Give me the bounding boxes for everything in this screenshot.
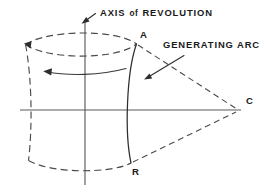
labels-group: AXISofREVOLUTION GENERATING ARC A C R bbox=[100, 7, 260, 177]
radius-lines-group bbox=[133, 45, 236, 162]
generating-arc-group bbox=[127, 44, 136, 163]
diagram-canvas: AXISofREVOLUTION GENERATING ARC A C R bbox=[0, 0, 264, 193]
axis-label-axis-word: AXIS bbox=[100, 7, 125, 18]
radius-line-r-to-c bbox=[133, 112, 236, 162]
surface-of-revolution-figure: AXISofREVOLUTION GENERATING ARC A C R bbox=[0, 0, 264, 193]
top-ellipse-front-arc bbox=[26, 44, 137, 56]
bottom-rim-group bbox=[29, 161, 132, 171]
bottom-ellipse-front-arc bbox=[29, 161, 132, 171]
generating-arc-label: GENERATING ARC bbox=[163, 39, 260, 50]
top-ellipse-back-arc bbox=[26, 33, 137, 45]
axis-label-leader-group bbox=[82, 14, 96, 24]
axis-of-revolution-label: AXISofREVOLUTION bbox=[100, 7, 213, 18]
axis-label-of-word: of bbox=[129, 9, 138, 18]
top-rim-ellipse-group bbox=[24, 33, 137, 56]
point-label-c: C bbox=[246, 95, 253, 106]
generating-arc-curve bbox=[127, 44, 136, 163]
left-silhouette-group bbox=[26, 45, 32, 161]
point-label-a: A bbox=[140, 29, 147, 40]
radius-line-a-to-c bbox=[138, 45, 236, 109]
generating-arc-leader-line bbox=[148, 56, 185, 78]
rotation-arrow-shaft bbox=[47, 69, 127, 75]
axis-label-revolution-word: REVOLUTION bbox=[142, 7, 212, 18]
arrow-left-icon-rotation bbox=[43, 68, 52, 75]
left-silhouette-curve bbox=[26, 45, 32, 161]
arrow-down-left-icon-generating-arc bbox=[144, 74, 152, 80]
point-label-r: R bbox=[132, 166, 139, 177]
generating-arc-leader-group bbox=[144, 56, 184, 80]
